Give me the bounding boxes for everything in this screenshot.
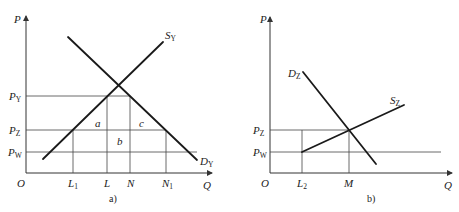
x-axis-label-a: Q <box>203 179 211 191</box>
panel-a: P Q O PY PZ PW L1 L N N1 SY DY a b c a) <box>7 13 214 205</box>
qty-label-l1: L1 <box>67 177 78 191</box>
price-label-pw-b: PW <box>252 146 268 160</box>
area-label-c: c <box>139 117 144 129</box>
curve-label-dz: DZ <box>287 67 301 81</box>
qty-label-l: L <box>103 177 110 189</box>
x-axis-label-b: Q <box>444 179 452 191</box>
curve-label-sz: SZ <box>390 94 401 108</box>
supply-curve-sy <box>43 42 163 159</box>
qty-label-l2: L2 <box>296 177 307 191</box>
qty-label-n1: N1 <box>161 177 173 191</box>
price-label-py: PY <box>8 90 22 104</box>
price-label-pw: PW <box>7 146 23 160</box>
curve-label-sy: SY <box>165 29 177 43</box>
origin-label-b: O <box>261 177 269 189</box>
panel-b: P Q O PZ PW L2 M DZ SZ b) <box>252 13 452 205</box>
qty-label-m: M <box>343 177 354 189</box>
qty-label-n: N <box>126 177 135 189</box>
area-label-a: a <box>95 117 101 129</box>
trade-diagram: P Q O PY PZ PW L1 L N N1 SY DY a b c a) … <box>0 0 459 212</box>
caption-a: a) <box>109 193 117 205</box>
y-axis-label-a: P <box>13 13 21 25</box>
curve-label-dy: DY <box>199 155 214 169</box>
price-label-pz: PZ <box>8 124 21 138</box>
demand-curve-dy <box>68 37 197 160</box>
demand-curve-dz <box>303 72 376 164</box>
y-axis-label-b: P <box>259 13 267 25</box>
caption-b: b) <box>367 193 375 205</box>
area-label-b: b <box>117 135 123 147</box>
supply-curve-sz <box>302 105 404 152</box>
origin-label-a: O <box>17 177 25 189</box>
price-label-pz-b: PZ <box>252 124 265 138</box>
